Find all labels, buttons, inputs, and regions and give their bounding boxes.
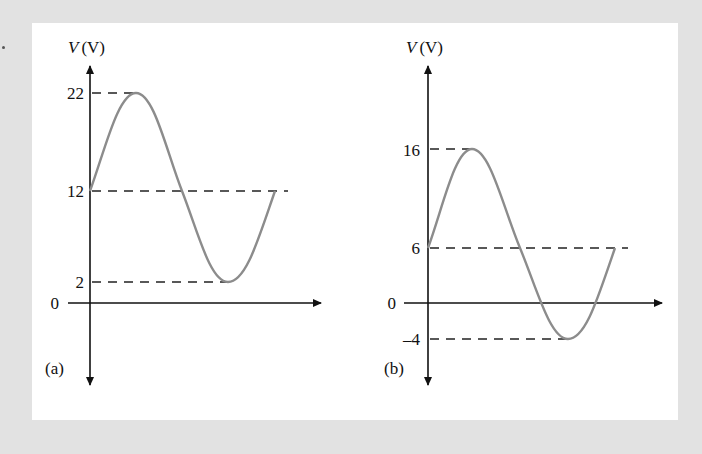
chart-b-tick-neg4: –4 [402,330,421,349]
chart-a: V(V) 22 12 2 0 (a) [45,38,321,385]
chart-b-tick-6: 6 [412,239,421,258]
chart-a-panel-label: (a) [45,359,64,378]
chart-b-tick-16: 16 [403,141,420,160]
chart-a-tick-2: 2 [76,273,85,292]
chart-b-panel-label: (b) [384,359,404,378]
chart-b-ylabel-symbol: V [406,38,419,57]
chart-a-tick-22: 22 [67,84,84,103]
chart-b-sine-curve [428,149,615,339]
chart-b-ylabel: V(V) [406,38,443,57]
chart-b-tick-0: 0 [388,294,397,313]
chart-b: V(V) 16 6 0 –4 (b) [384,38,662,385]
chart-a-tick-0: 0 [51,294,60,313]
chart-a-ylabel: V(V) [68,38,105,57]
chart-a-ylabel-unit: (V) [81,38,105,57]
chart-a-ylabel-symbol: V [68,38,81,57]
chart-a-sine-curve [90,93,275,282]
figure-canvas: V(V) 22 12 2 0 (a) V(V) 16 6 0 –4 [0,0,702,454]
chart-b-ylabel-unit: (V) [419,38,443,57]
chart-a-tick-12: 12 [67,182,84,201]
